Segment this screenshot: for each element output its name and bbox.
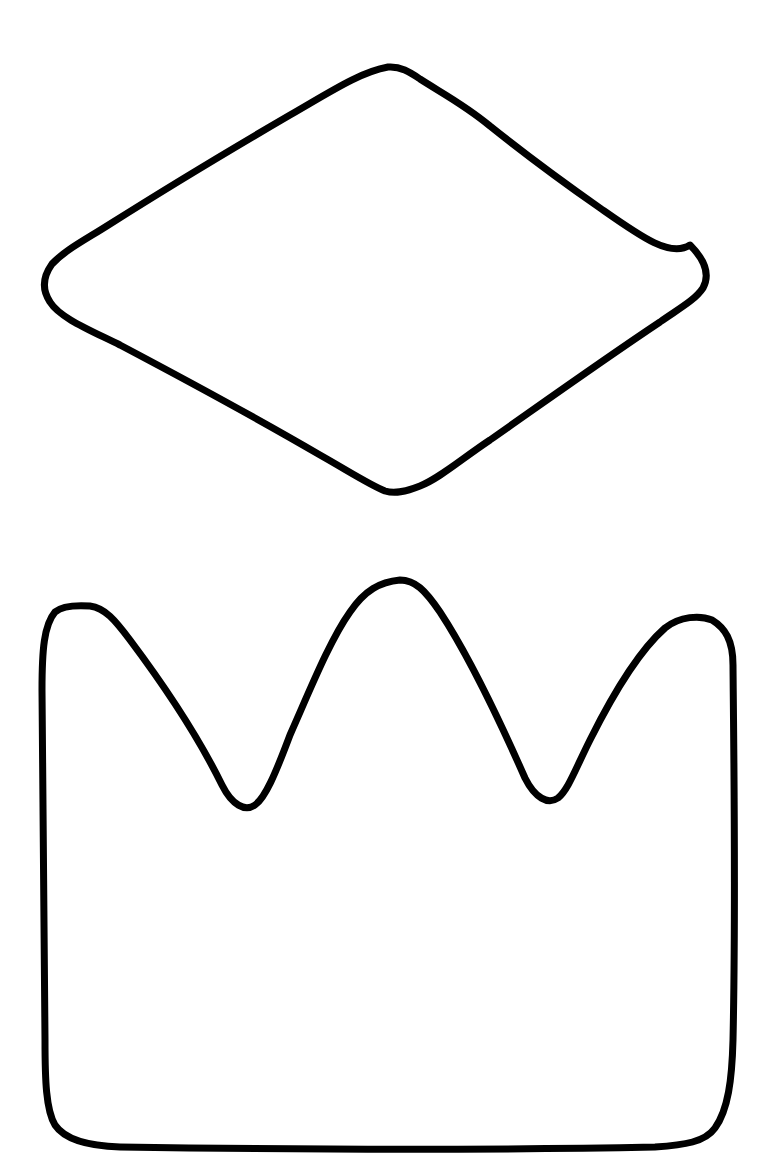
crown-outline — [42, 580, 735, 1149]
diamond-shape — [44, 67, 706, 492]
crown-shape — [42, 580, 735, 1149]
diamond-outline — [44, 67, 706, 492]
coloring-page-canvas — [0, 0, 781, 1176]
